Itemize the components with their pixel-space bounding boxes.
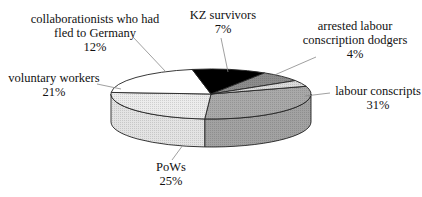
label-pows: PoWs 25% bbox=[146, 160, 196, 188]
label-collaborationists-line2: fled to Germany bbox=[54, 26, 136, 40]
label-arrested-dodgers-line2: conscription dodgers bbox=[303, 33, 408, 47]
label-voluntary-workers-pct: 21% bbox=[4, 85, 104, 99]
label-collaborationists: collaborationists who had fled to German… bbox=[20, 12, 170, 54]
label-kz-survivors: KZ survivors 7% bbox=[178, 8, 268, 36]
label-kz-survivors-line1: KZ survivors bbox=[190, 8, 256, 22]
leader-kz-survivors bbox=[221, 38, 228, 72]
label-voluntary-workers-line1: voluntary workers bbox=[8, 71, 99, 85]
label-labour-conscripts-pct: 31% bbox=[334, 98, 422, 112]
label-pows-line1: PoWs bbox=[156, 160, 186, 174]
leader-pows bbox=[172, 145, 183, 160]
label-kz-survivors-pct: 7% bbox=[178, 22, 268, 36]
label-labour-conscripts-line1: labour conscripts bbox=[335, 84, 421, 98]
label-labour-conscripts: labour conscripts 31% bbox=[334, 84, 422, 112]
label-voluntary-workers: voluntary workers 21% bbox=[4, 71, 104, 99]
label-collaborationists-pct: 12% bbox=[20, 40, 170, 54]
label-arrested-dodgers-pct: 4% bbox=[290, 47, 420, 61]
label-arrested-dodgers-line1: arrested labour bbox=[318, 19, 393, 33]
label-pows-pct: 25% bbox=[146, 174, 196, 188]
label-arrested-dodgers: arrested labour conscription dodgers 4% bbox=[290, 19, 420, 61]
label-collaborationists-line1: collaborationists who had bbox=[31, 12, 159, 26]
pie-chart: collaborationists who had fled to German… bbox=[0, 0, 422, 197]
